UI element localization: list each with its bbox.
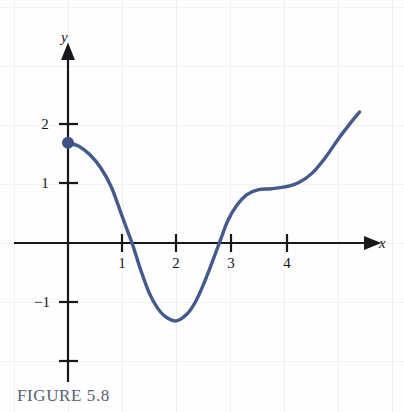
x-tick-label-3: 3 xyxy=(224,256,238,271)
y-tick-label-2: 2 xyxy=(38,117,52,132)
y-tick-label-1: 1 xyxy=(38,176,52,191)
plot-area xyxy=(0,0,404,412)
x-tick-label-4: 4 xyxy=(280,256,294,271)
x-tick-label-2: 2 xyxy=(169,256,183,271)
function-curve xyxy=(68,112,360,321)
x-tick-label-1: 1 xyxy=(115,256,129,271)
figure-container: y x 1 2 3 4 2 1 −1 FIGURE 5.8 xyxy=(0,0,404,412)
y-tick-label-neg1: −1 xyxy=(31,295,53,310)
y-intercept-dot xyxy=(62,137,74,149)
x-axis-label: x xyxy=(379,236,386,251)
y-axis-label: y xyxy=(61,30,68,45)
figure-caption: FIGURE 5.8 xyxy=(17,386,110,406)
